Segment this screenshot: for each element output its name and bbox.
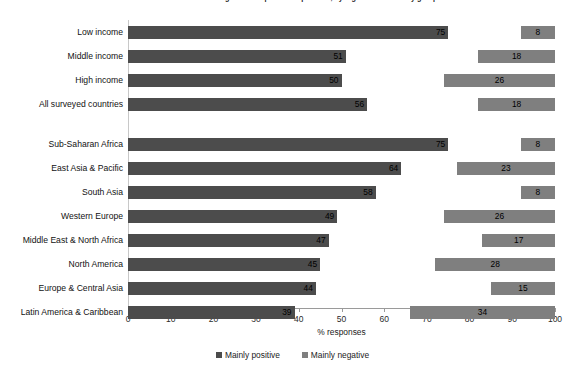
category-label: East Asia & Pacific: [51, 161, 123, 175]
bar-mainly-positive[interactable]: 49: [128, 210, 337, 223]
chart-row: Sub-Saharan Africa758: [128, 138, 555, 151]
bar-value-label: 34: [410, 306, 555, 319]
category-label: Europe & Central Asia: [38, 281, 123, 295]
chart-row: Middle East & North Africa4717: [128, 234, 555, 247]
bar-mainly-negative[interactable]: 17: [482, 234, 555, 247]
category-label: Low income: [77, 25, 123, 39]
category-label: Sub-Saharan Africa: [48, 137, 123, 151]
legend-swatch-icon: [216, 352, 222, 358]
bar-mainly-negative[interactable]: 8: [521, 138, 555, 151]
bar-value-label: 50: [329, 74, 338, 87]
legend-label: Mainly negative: [311, 350, 369, 360]
bar-mainly-positive[interactable]: 64: [128, 162, 401, 175]
category-label: Western Europe: [61, 209, 123, 223]
chart-row: Western Europe4926: [128, 210, 555, 223]
bar-mainly-positive[interactable]: 50: [128, 74, 342, 87]
bar-mainly-negative[interactable]: 15: [491, 282, 555, 295]
legend-swatch-icon: [302, 352, 308, 358]
legend-label: Mainly positive: [225, 350, 280, 360]
category-label: High income: [75, 73, 123, 87]
bar-mainly-negative[interactable]: 28: [435, 258, 555, 271]
category-label: Middle income: [68, 49, 123, 63]
bar-value-label: 26: [444, 74, 555, 87]
bar-value-label: 8: [521, 138, 555, 151]
bar-mainly-negative[interactable]: 23: [457, 162, 555, 175]
bar-mainly-negative[interactable]: 26: [444, 210, 555, 223]
chart-row: Middle income5118: [128, 50, 555, 63]
bar-mainly-positive[interactable]: 51: [128, 50, 346, 63]
bar-value-label: 58: [363, 186, 372, 199]
category-label: Latin America & Caribbean: [21, 305, 123, 319]
chart-row: Europe & Central Asia4415: [128, 282, 555, 295]
bar-mainly-negative[interactable]: 18: [478, 98, 555, 111]
bar-value-label: 18: [478, 50, 555, 63]
bar-value-label: 23: [457, 162, 555, 175]
bar-mainly-positive[interactable]: 75: [128, 138, 448, 151]
chart-title: Figure: Perceptions of openness, by regi…: [170, 0, 490, 2]
bar-value-label: 18: [478, 98, 555, 111]
chart-row: Latin America & Caribbean3934: [128, 306, 555, 319]
legend-item[interactable]: Mainly positive: [216, 350, 280, 360]
chart-row: All surveyed countries5618: [128, 98, 555, 111]
bar-mainly-negative[interactable]: 8: [521, 26, 555, 39]
bar-mainly-positive[interactable]: 75: [128, 26, 448, 39]
bar-value-label: 49: [325, 210, 334, 223]
legend-item[interactable]: Mainly negative: [302, 350, 369, 360]
chart-row: South Asia588: [128, 186, 555, 199]
chart-container: Figure: Perceptions of openness, by regi…: [0, 0, 585, 381]
x-axis-tick-mark: [555, 308, 556, 312]
bar-mainly-positive[interactable]: 39: [128, 306, 295, 319]
bar-value-label: 8: [521, 186, 555, 199]
bar-value-label: 51: [333, 50, 342, 63]
chart-row: Low income758: [128, 26, 555, 39]
bar-mainly-negative[interactable]: 18: [478, 50, 555, 63]
bar-value-label: 17: [482, 234, 555, 247]
bar-mainly-positive[interactable]: 56: [128, 98, 367, 111]
bar-mainly-negative[interactable]: 34: [410, 306, 555, 319]
x-axis-title: % responses: [128, 327, 555, 337]
category-label: South Asia: [82, 185, 123, 199]
bar-value-label: 56: [355, 98, 364, 111]
bar-value-label: 75: [436, 26, 445, 39]
chart-row: North America4528: [128, 258, 555, 271]
plot-area: 0102030405060708090100Low income758Middl…: [128, 20, 555, 308]
bar-value-label: 64: [389, 162, 398, 175]
bar-mainly-positive[interactable]: 44: [128, 282, 316, 295]
bar-value-label: 44: [304, 282, 313, 295]
bar-value-label: 28: [435, 258, 555, 271]
bar-mainly-positive[interactable]: 45: [128, 258, 320, 271]
bar-mainly-negative[interactable]: 8: [521, 186, 555, 199]
bar-value-label: 45: [308, 258, 317, 271]
bar-value-label: 39: [282, 306, 291, 319]
bar-mainly-positive[interactable]: 58: [128, 186, 376, 199]
bar-mainly-positive[interactable]: 47: [128, 234, 329, 247]
chart-legend: Mainly positiveMainly negative: [0, 350, 585, 360]
chart-row: East Asia & Pacific6423: [128, 162, 555, 175]
category-label: All surveyed countries: [39, 97, 123, 111]
bar-value-label: 47: [316, 234, 325, 247]
bar-value-label: 8: [521, 26, 555, 39]
chart-row: High income5026: [128, 74, 555, 87]
bar-mainly-negative[interactable]: 26: [444, 74, 555, 87]
category-label: Middle East & North Africa: [23, 233, 123, 247]
bar-value-label: 15: [491, 282, 555, 295]
bar-value-label: 75: [436, 138, 445, 151]
bar-value-label: 26: [444, 210, 555, 223]
category-label: North America: [69, 257, 123, 271]
